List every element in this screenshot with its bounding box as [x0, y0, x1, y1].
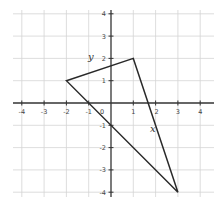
y-tick-label: 4	[102, 10, 106, 18]
x-tick-label: 4	[198, 108, 202, 116]
x-tick-label: -4	[19, 108, 25, 116]
y-axis-label: y	[87, 51, 94, 62]
x-tick-label: 2	[155, 108, 159, 116]
y-tick-label: 3	[102, 33, 106, 41]
x-tick-label: 1	[131, 108, 135, 116]
y-tick-label: -3	[100, 166, 106, 174]
y-tick-label: 2	[102, 55, 106, 63]
y-tick-label: -4	[100, 189, 106, 197]
y-tick-label: 1	[102, 77, 106, 85]
y-tick-label: -2	[100, 144, 106, 152]
coordinate-plane: -4 -3 -2 -1 0 1 2 3 4 4 3 2 1 -1 -2 -3 -…	[0, 0, 223, 207]
x-tick-label: 3	[176, 108, 180, 116]
x-tick-label: -3	[41, 108, 47, 116]
x-tick-label: -2	[63, 108, 69, 116]
y-tick-label: -1	[100, 122, 106, 130]
x-tick-label: -1	[85, 108, 91, 116]
graph-canvas: -4 -3 -2 -1 0 1 2 3 4 4 3 2 1 -1 -2 -3 -…	[0, 0, 223, 207]
